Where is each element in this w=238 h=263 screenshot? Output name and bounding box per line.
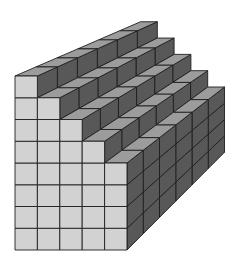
cube-front-face xyxy=(60,207,82,229)
cube-front-face xyxy=(15,163,37,185)
cube-front-face xyxy=(37,141,59,163)
cube-front-face xyxy=(15,141,37,163)
cube-staircase-diagram xyxy=(0,0,238,263)
cube-front-face xyxy=(60,185,82,207)
cube-front-face xyxy=(37,185,59,207)
cube-front-face xyxy=(82,207,104,229)
cube-front-face xyxy=(60,163,82,185)
cube-front-face xyxy=(82,228,104,250)
cube-front-face xyxy=(60,141,82,163)
cube-front-face xyxy=(15,120,37,142)
cube-front-face xyxy=(37,207,59,229)
cube-front-face xyxy=(37,120,59,142)
cube-front-face xyxy=(60,120,82,142)
cube-front-face xyxy=(37,163,59,185)
cube-front-face xyxy=(15,76,37,98)
cube-front-face xyxy=(15,98,37,120)
cube-front-face xyxy=(105,228,127,250)
staircase-figure xyxy=(0,0,238,263)
cube-front-face xyxy=(105,207,127,229)
cube-front-face xyxy=(15,207,37,229)
cube-front-face xyxy=(82,185,104,207)
cube-front-face xyxy=(82,141,104,163)
cube-front-face xyxy=(37,98,59,120)
cube-front-face xyxy=(15,228,37,250)
cube-front-face xyxy=(60,228,82,250)
cube-front-face xyxy=(105,163,127,185)
cube-front-face xyxy=(105,185,127,207)
cube-front-face xyxy=(15,185,37,207)
cube-front-face xyxy=(82,163,104,185)
cube-front-face xyxy=(37,228,59,250)
